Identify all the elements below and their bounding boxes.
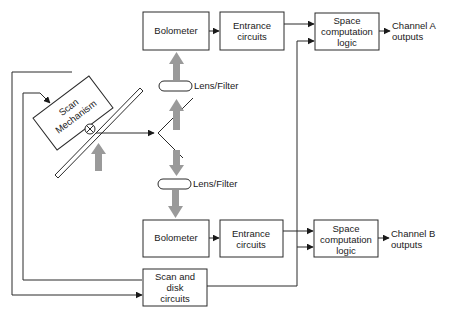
output-b-line1: Channel B bbox=[391, 228, 435, 239]
incoming-beam-arrow bbox=[91, 143, 106, 171]
bolometer-b-label: Bolometer bbox=[154, 232, 197, 243]
entrance-a-line1: Entrance bbox=[233, 20, 271, 31]
entrance-a-line2: circuits bbox=[237, 31, 267, 42]
lens-filter-top-icon bbox=[159, 81, 192, 91]
output-a-line2: outputs bbox=[392, 31, 423, 42]
lens-filter-bottom-icon bbox=[158, 179, 191, 189]
scan-disk-line3: circuits bbox=[160, 293, 190, 304]
space-computation-logic-b-block: Space computation logic bbox=[314, 220, 378, 257]
space-a-line3: logic bbox=[337, 37, 357, 48]
channel-b-outputs-label: Channel B outputs bbox=[391, 228, 435, 250]
scan-mechanism-block: Scan Mechanism bbox=[33, 76, 113, 150]
bolometer-b-block: Bolometer bbox=[143, 220, 209, 257]
beam-lens-bottom-to-bolometer-b bbox=[168, 190, 183, 218]
entrance-b-line1: Entrance bbox=[232, 228, 270, 239]
entrance-circuits-a-block: Entrance circuits bbox=[220, 12, 284, 50]
lens-filter-top-label: Lens/Filter bbox=[194, 80, 238, 91]
pivot-icon bbox=[85, 124, 95, 134]
space-a-line1: Space bbox=[334, 15, 361, 26]
output-b-line2: outputs bbox=[391, 239, 422, 250]
space-b-line2: computation bbox=[320, 234, 372, 245]
scan-disk-line1: Scan and bbox=[155, 271, 195, 282]
output-a-line1: Channel A bbox=[392, 20, 437, 31]
entrance-b-line2: circuits bbox=[236, 239, 266, 250]
channel-a-outputs-label: Channel A outputs bbox=[392, 20, 437, 42]
lens-filter-bottom-label: Lens/Filter bbox=[193, 178, 237, 189]
bolometer-a-block: Bolometer bbox=[143, 12, 209, 50]
scan-disk-line2: disk bbox=[167, 282, 184, 293]
entrance-circuits-b-block: Entrance circuits bbox=[220, 220, 283, 257]
space-computation-logic-a-block: Space computation logic bbox=[315, 13, 379, 50]
diagram-canvas: Bolometer Entrance circuits Space comput… bbox=[0, 0, 449, 316]
beam-up-to-lens-top bbox=[169, 99, 184, 130]
space-b-line3: logic bbox=[336, 245, 356, 256]
space-b-line1: Space bbox=[333, 223, 360, 234]
beam-lens-top-to-bolometer-a bbox=[169, 52, 184, 80]
beam-down-to-lens-bottom bbox=[169, 150, 184, 176]
bolometer-a-label: Bolometer bbox=[154, 25, 197, 36]
scan-and-disk-circuits-block: Scan and disk circuits bbox=[143, 269, 207, 306]
space-a-line2: computation bbox=[321, 26, 373, 37]
